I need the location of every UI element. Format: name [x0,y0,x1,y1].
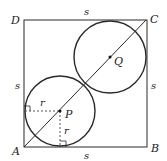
radius-label-vertical: r [64,125,70,136]
side-label-bottom: s [84,150,89,161]
point-p [59,110,62,113]
center-label-p: P [64,108,73,121]
vertex-label-a: A [11,145,20,158]
side-label-top: s [84,6,89,17]
side-label-left: s [15,80,20,91]
side-label-right: s [151,80,156,91]
vertex-label-b: B [150,142,159,155]
vertex-label-d: D [10,14,20,27]
geometry-diagram: D C A B s s s s P Q r r [0,0,167,161]
vertex-label-c: C [150,13,159,26]
radius-label-horizontal: r [40,97,46,108]
center-label-q: Q [114,55,123,68]
point-q [109,56,112,59]
